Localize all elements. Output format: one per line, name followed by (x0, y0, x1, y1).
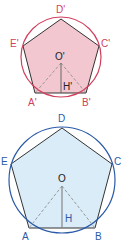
label-o-prime: O' (55, 51, 65, 62)
label-o: O (58, 173, 66, 184)
label-h: H (65, 213, 72, 224)
label-d: D (58, 113, 65, 124)
label-c-prime: C' (101, 38, 110, 49)
label-h-prime: H' (63, 81, 72, 92)
small-pentagon-figure: D' E' C' O' H' A' B' (10, 4, 110, 108)
pentagon-diagram: D' E' C' O' H' A' B' D E C O H A B (0, 0, 124, 244)
label-a: A (22, 231, 29, 242)
label-c: C (114, 156, 121, 167)
large-pentagon-figure: D E C O H A B (1, 113, 121, 242)
label-a-prime: A' (28, 97, 37, 108)
label-b: B (95, 231, 102, 242)
label-e-prime: E' (10, 38, 19, 49)
label-b-prime: B' (82, 97, 91, 108)
label-d-prime: D' (56, 4, 65, 15)
label-e: E (1, 156, 8, 167)
